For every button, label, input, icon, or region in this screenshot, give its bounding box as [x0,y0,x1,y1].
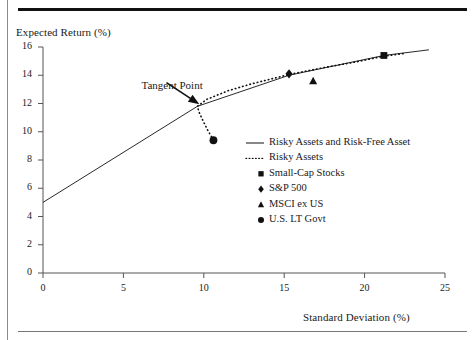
legend-marker-square [258,171,263,176]
legend-label: S&P 500 [269,182,307,193]
axes-group [43,47,445,273]
legend-group [246,143,264,223]
figure-panel: Expected Return (%) Standard Deviation (… [0,0,475,340]
legend-marker-diamond [258,186,264,193]
data-point-circle [210,136,218,144]
data-point-diamond [285,69,292,78]
annotation-arrow-line [166,83,192,100]
plot-canvas [0,0,475,340]
data-point-square [380,52,387,59]
x-tick-label: 5 [112,282,134,293]
x-tick-label: 15 [273,282,295,293]
data-point-triangle [309,77,317,85]
y-tick-label: 4 [10,210,32,221]
legend-label: Risky Assets [269,151,323,162]
x-tick-label: 25 [434,282,456,293]
legend-label: Risky Assets and Risk-Free Asset [269,136,410,147]
x-tick-label: 20 [354,282,376,293]
legend-marker-circle [258,217,264,223]
x-tick-label: 10 [193,282,215,293]
annotation-arrow-group [166,83,199,105]
y-tick-label: 2 [10,238,32,249]
series-dotted-line [197,53,404,140]
axis-ticks-group [38,47,445,278]
y-tick-label: 12 [10,97,32,108]
y-tick-label: 0 [10,266,32,277]
series-solid-line [43,50,429,203]
legend-marker-triangle [258,201,264,207]
y-tick-label: 8 [10,153,32,164]
legend-label: U.S. LT Govt [269,213,326,224]
legend-label: MSCI ex US [269,198,323,209]
data-points-group [210,52,388,144]
x-tick-label: 0 [32,282,54,293]
legend-label: Small-Cap Stocks [269,167,345,178]
annotation-arrow-head [188,95,199,105]
y-tick-label: 6 [10,181,32,192]
y-tick-label: 10 [10,125,32,136]
y-tick-label: 16 [10,40,32,51]
data-series-group [43,50,429,203]
y-tick-label: 14 [10,68,32,79]
